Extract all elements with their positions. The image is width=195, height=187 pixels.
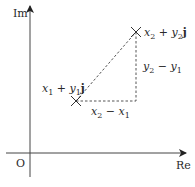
point-2-label: x2 + y2j — [144, 26, 187, 41]
imaginary-axis-label: Im — [13, 7, 28, 20]
point-2-cross-icon — [131, 27, 141, 37]
point-1-label: x1 + y1j — [42, 82, 85, 97]
complex-plane-diagram: Im O Re x1 + y1j x2 + y2j y2 − y1 x2 − x… — [0, 0, 195, 187]
dashed-hypotenuse — [76, 32, 136, 101]
vertical-difference-label: y2 − y1 — [142, 60, 182, 75]
origin-label: O — [16, 157, 25, 170]
point-1-cross-icon — [71, 96, 81, 106]
horizontal-difference-label: x2 − x1 — [91, 105, 130, 120]
real-axis-label: Re — [176, 159, 191, 172]
